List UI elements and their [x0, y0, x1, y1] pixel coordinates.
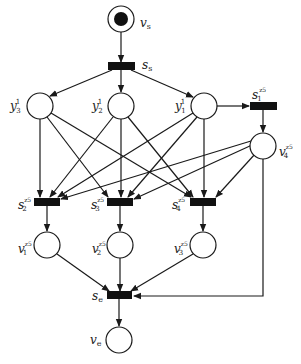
- place-y2: [108, 93, 134, 119]
- label-s3: sz53: [91, 196, 104, 213]
- label-se: se: [92, 289, 103, 304]
- label-s2: sz52: [18, 196, 31, 213]
- place-y3: [27, 93, 53, 119]
- arc-y2-s2: [50, 117, 113, 197]
- arcs: [40, 32, 263, 326]
- arc-y1-s2: [58, 113, 193, 197]
- label-v3: vz53: [174, 240, 188, 257]
- token-icon: [114, 12, 128, 26]
- place-y1: [191, 93, 217, 119]
- label-v1: vz51: [18, 240, 32, 257]
- label-s4: sz54: [172, 196, 185, 213]
- place-v1: [34, 232, 60, 258]
- place-v3: [190, 232, 216, 258]
- arc-ss-y3: [50, 70, 112, 96]
- label-y3: y13: [9, 98, 21, 115]
- label-v4: vz54: [279, 143, 293, 160]
- transition-s2: [34, 198, 60, 206]
- label-ss: ss: [142, 58, 152, 73]
- transition-s4: [190, 198, 216, 206]
- label-y2: y12: [91, 98, 103, 115]
- label-y1: y11: [174, 98, 186, 115]
- arc-v4-se: [134, 159, 263, 296]
- transition-s3: [107, 198, 133, 206]
- label-s1: sz51: [252, 86, 266, 103]
- place-v4: [250, 133, 276, 159]
- place-v2: [107, 232, 133, 258]
- labels: vs ss y13 y12 y11 sz51 vz54 sz52 sz53 sz…: [9, 16, 293, 348]
- petri-net-diagram: vs ss y13 y12 y11 sz51 vz54 sz52 sz53 sz…: [0, 0, 301, 364]
- arc-v3-se: [131, 254, 193, 291]
- arc-v1-se: [57, 254, 109, 291]
- place-vs: [108, 6, 134, 32]
- arc-v4-s4: [216, 154, 255, 197]
- arc-ss-y1: [131, 70, 193, 97]
- label-vs: vs: [140, 16, 151, 31]
- label-v2: vz52: [92, 240, 106, 257]
- place-ve: [106, 327, 132, 353]
- transition-ss: [108, 62, 135, 70]
- transition-se: [107, 291, 132, 299]
- arc-v4-s3: [134, 145, 252, 199]
- transition-s1: [250, 102, 277, 110]
- label-ve: ve: [90, 333, 102, 348]
